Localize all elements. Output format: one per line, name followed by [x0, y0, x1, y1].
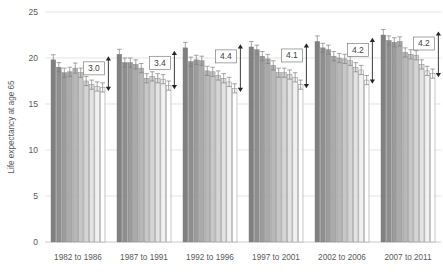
- y-tick-label-10: 10: [29, 145, 39, 155]
- bar-4-10: [298, 85, 303, 242]
- gap-arrow-head-top: [304, 43, 309, 47]
- bar-6-5: [403, 52, 408, 242]
- bar-5-10: [364, 80, 369, 242]
- gap-annotation-label-2: 3.4: [154, 58, 166, 68]
- bar-5-5: [337, 58, 342, 242]
- gap-arrow-3: [238, 44, 243, 92]
- bar-2-10: [166, 86, 171, 242]
- bar-group-5: 4.2: [315, 36, 375, 242]
- bar-1-2: [56, 67, 61, 242]
- bar-5-2: [320, 48, 325, 242]
- gap-arrow-head-top: [238, 44, 243, 48]
- gap-annotation-label-3: 4.4: [220, 51, 232, 61]
- bar-2-5: [139, 68, 144, 242]
- life-expectancy-bar-chart: 0510152025Life expectancy at age 653.019…: [0, 0, 443, 278]
- bar-6-4: [397, 41, 402, 242]
- bar-3-2: [188, 62, 193, 242]
- y-tick-label-25: 25: [29, 7, 39, 17]
- bar-2-9: [161, 79, 166, 242]
- bar-1-10: [100, 87, 105, 242]
- y-axis-title: Life expectancy at age 65: [7, 80, 16, 174]
- gap-arrow-head-bottom: [106, 87, 111, 91]
- bar-4-1: [249, 47, 254, 242]
- x-category-label-2: 1987 to 1991: [120, 253, 168, 262]
- bar-4-6: [276, 73, 281, 242]
- x-category-label-1: 1982 to 1986: [54, 253, 102, 262]
- y-tick-label-0: 0: [33, 237, 38, 247]
- bar-4-5: [271, 65, 276, 242]
- y-tick-label-20: 20: [29, 53, 39, 63]
- gap-annotation-label-4: 4.1: [286, 50, 298, 60]
- bar-1-8: [89, 85, 94, 242]
- gap-arrow-2: [172, 51, 177, 89]
- bar-6-7: [414, 55, 419, 242]
- x-category-label-4: 1997 to 2001: [252, 253, 300, 262]
- gap-annotation-label-1: 3.0: [88, 63, 100, 73]
- bar-group-1: 3.0: [51, 55, 111, 242]
- gap-arrow-1: [106, 56, 111, 91]
- bar-2-6: [144, 78, 149, 242]
- x-category-label-6: 2007 to 2011: [384, 253, 432, 262]
- gap-annotation-label-5: 4.2: [352, 45, 364, 55]
- bar-5-4: [331, 56, 336, 242]
- bar-4-3: [260, 56, 265, 242]
- x-category-label-5: 2002 to 2006: [318, 253, 366, 262]
- bar-3-9: [227, 82, 232, 242]
- bar-5-6: [342, 59, 347, 242]
- gap-arrow-6: [436, 31, 441, 77]
- bar-4-2: [254, 50, 259, 242]
- bar-4-7: [282, 73, 287, 242]
- bar-5-9: [359, 70, 364, 242]
- bar-2-8: [155, 78, 160, 242]
- bar-6-8: [419, 64, 424, 242]
- bar-group-2: 3.4: [117, 49, 177, 242]
- bar-6-6: [408, 54, 413, 242]
- bar-1-3: [62, 73, 67, 242]
- gap-arrow-head-bottom: [304, 84, 309, 88]
- bar-1-7: [84, 81, 89, 242]
- gap-arrow-head-bottom: [436, 73, 441, 77]
- bar-1-1: [51, 60, 56, 242]
- bar-group-4: 4.1: [249, 41, 309, 242]
- bar-3-1: [183, 48, 188, 242]
- gap-arrow-head-top: [370, 38, 375, 42]
- x-category-label-3: 1992 to 1996: [186, 253, 234, 262]
- gap-arrow-4: [304, 43, 309, 88]
- gap-arrow-head-bottom: [172, 85, 177, 89]
- bar-3-4: [199, 61, 204, 242]
- bar-3-10: [232, 88, 237, 242]
- bar-6-2: [386, 41, 391, 242]
- bar-4-9: [293, 77, 298, 242]
- bar-4-4: [265, 59, 270, 242]
- y-tick-label-15: 15: [29, 99, 39, 109]
- bar-1-9: [95, 87, 100, 242]
- bar-1-4: [67, 72, 72, 242]
- bar-group-6: 4.2: [381, 29, 441, 242]
- bar-3-6: [210, 72, 215, 242]
- bar-2-3: [128, 63, 133, 242]
- bar-5-7: [348, 61, 353, 242]
- bar-2-2: [122, 63, 127, 242]
- bar-2-7: [150, 76, 155, 242]
- gap-arrow-head-top: [172, 51, 177, 55]
- bar-3-3: [194, 60, 199, 242]
- bar-4-8: [287, 75, 292, 242]
- bar-6-1: [381, 35, 386, 242]
- bar-3-7: [216, 75, 221, 242]
- bar-3-8: [221, 78, 226, 242]
- bar-2-1: [117, 54, 122, 242]
- bar-6-10: [430, 74, 435, 242]
- bar-6-3: [392, 42, 397, 242]
- bar-6-9: [425, 71, 430, 242]
- bar-3-5: [205, 71, 210, 242]
- bar-group-3: 4.4: [183, 42, 243, 242]
- bar-2-4: [133, 64, 138, 242]
- bar-5-1: [315, 41, 320, 242]
- gap-arrow-head-top: [436, 31, 441, 35]
- bar-5-8: [353, 67, 358, 242]
- gap-annotation-label-6: 4.2: [418, 38, 430, 48]
- bar-5-3: [326, 50, 331, 242]
- bar-1-5: [73, 68, 78, 242]
- gap-arrow-head-bottom: [370, 79, 375, 83]
- chart-canvas: 0510152025Life expectancy at age 653.019…: [0, 0, 443, 278]
